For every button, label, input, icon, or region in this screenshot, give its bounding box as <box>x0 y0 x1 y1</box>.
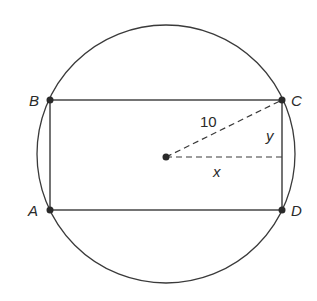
y-label: y <box>265 127 275 144</box>
vertex-label-c: C <box>291 92 302 109</box>
radius-label: 10 <box>200 113 217 130</box>
diagram-canvas: A B C D 10 y x <box>0 0 317 301</box>
vertex-point-c <box>279 97 286 104</box>
vertex-point-a <box>47 207 54 214</box>
vertex-label-d: D <box>291 202 302 219</box>
x-label: x <box>212 163 221 180</box>
vertex-point-b <box>47 97 54 104</box>
vertex-label-a: A <box>27 202 38 219</box>
vertex-label-b: B <box>29 92 39 109</box>
center-point <box>163 154 170 161</box>
radius-dashed-line <box>166 100 282 157</box>
vertex-point-d <box>279 207 286 214</box>
